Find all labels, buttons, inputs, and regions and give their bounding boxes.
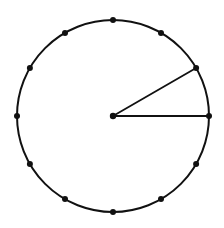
hour-dot-8 [27, 161, 33, 167]
hour-dot-6 [110, 209, 116, 215]
hour-dot-11 [62, 30, 68, 36]
hour-dot-9 [14, 113, 20, 119]
hand-to-2 [113, 68, 196, 116]
hour-dot-7 [62, 196, 68, 202]
center-dot [110, 113, 116, 119]
hour-dot-5 [158, 196, 164, 202]
hour-dot-10 [27, 65, 33, 71]
clock-hands [113, 68, 209, 116]
hour-dot-4 [193, 161, 199, 167]
hour-dot-12 [110, 17, 116, 23]
hour-dot-1 [158, 30, 164, 36]
clock-diagram [0, 0, 224, 228]
